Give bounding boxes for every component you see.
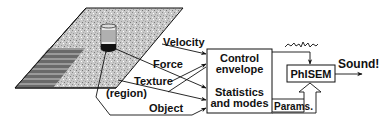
label-velocity: Velocity — [163, 36, 205, 48]
modes-label: and modes — [210, 97, 268, 109]
label-force: Force — [153, 58, 183, 70]
label-texture: Texture — [134, 75, 173, 87]
params-arrow: Params. — [272, 83, 321, 113]
noise-icon — [285, 42, 318, 47]
phisem-label: PhISEM — [291, 68, 332, 80]
envelope-label: envelope — [216, 63, 264, 75]
params-label: Params. — [274, 101, 313, 112]
phisem-box: PhISEM — [287, 65, 335, 82]
envelope-connector — [272, 52, 310, 64]
label-object: Object — [149, 102, 184, 114]
control-statistics-box: Control envelope Statistics and modes — [207, 49, 272, 113]
can-object — [101, 24, 116, 52]
sound-label: Sound! — [338, 57, 379, 71]
phisem-diagram: Velocity Force Texture (region) Object C… — [0, 0, 389, 123]
label-region: (region) — [106, 87, 147, 99]
